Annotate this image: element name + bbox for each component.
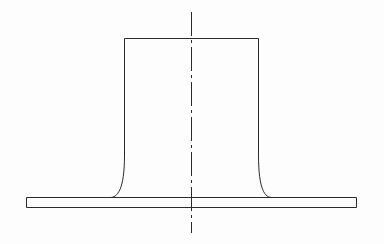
drawing-svg: [0, 0, 384, 244]
technical-drawing-canvas: [0, 0, 384, 244]
